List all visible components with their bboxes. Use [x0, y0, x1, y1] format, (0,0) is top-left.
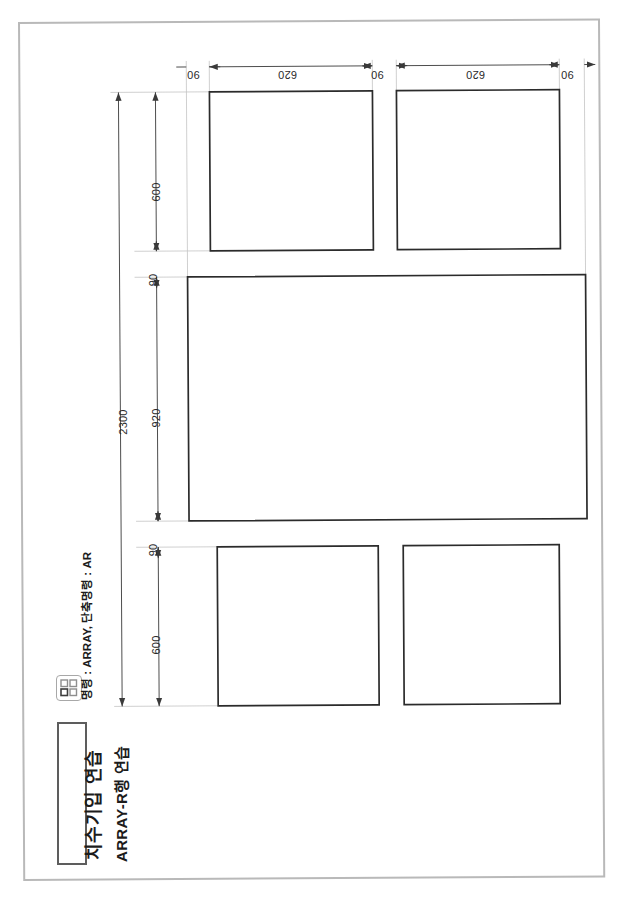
dim-h-90-b: 90	[371, 69, 384, 81]
dim-v-90-a: 90	[147, 274, 159, 287]
bottom-right-rect	[403, 545, 560, 705]
top-left-rect	[209, 91, 373, 251]
dim-v-600-b: 600	[150, 636, 162, 655]
extension-lines-left	[110, 92, 222, 707]
page-title: 치수기입 연습	[79, 749, 105, 860]
center-rect	[188, 275, 587, 521]
dim-v-600-a: 600	[150, 183, 162, 202]
drawing-sheet: 90 620 90 620 90 600 90 920 90 600 2300 …	[0, 0, 617, 900]
command-note: 명령 : ARRAY, 단축명령 : AR	[78, 552, 94, 700]
dim-h-90-a: 90	[187, 69, 200, 81]
dim-h-90-c: 90	[561, 69, 574, 81]
dimension-chain-top	[176, 64, 595, 67]
page-subtitle: ARRAY-R행 연습	[110, 746, 131, 862]
dim-h-620-b: 620	[466, 69, 485, 81]
dim-v-90-b: 90	[147, 544, 159, 557]
object-shapes	[186, 90, 588, 706]
dim-v-2300: 2300	[117, 409, 129, 434]
bottom-left-rect	[217, 546, 379, 706]
dim-h-620-a: 620	[278, 69, 297, 81]
dim-v-920: 920	[150, 409, 162, 428]
top-right-rect	[396, 90, 560, 250]
